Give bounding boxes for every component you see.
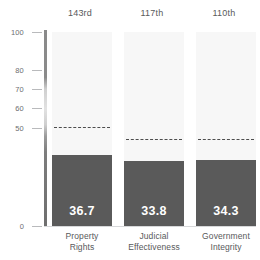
y-tick-mark-100: [32, 32, 42, 33]
category-line-2: Integrity: [190, 242, 260, 253]
plot-area: 100 80 70 60 50 0 36.7 33.8 34.3 Propert: [0, 0, 260, 260]
y-tick-label-0: 0: [2, 222, 24, 231]
category-line-1: Property: [48, 231, 116, 242]
reference-line-3: [198, 139, 254, 140]
x-axis-baseline: [44, 226, 256, 227]
y-tick-mark-50: [32, 128, 42, 129]
category-label-government-integrity: Government Integrity: [190, 231, 260, 252]
reference-line-2: [126, 139, 182, 140]
category-line-2: Rights: [48, 242, 116, 253]
bar-value-government-integrity: 34.3: [196, 204, 256, 218]
bar-judicial-effectiveness[interactable]: 33.8: [124, 161, 184, 226]
y-tick-label-100: 100: [2, 28, 24, 37]
y-tick-mark-0: [32, 226, 42, 227]
category-line-1: Government: [190, 231, 260, 242]
bar-government-integrity[interactable]: 34.3: [196, 160, 256, 226]
reference-line-1: [54, 127, 110, 128]
bar-value-judicial-effectiveness: 33.8: [124, 204, 184, 218]
y-tick-mark-60: [32, 108, 42, 109]
category-label-property-rights: Property Rights: [48, 231, 116, 252]
y-tick-label-60: 60: [2, 104, 24, 113]
y-tick-mark-80: [32, 70, 42, 71]
bar-value-property-rights: 36.7: [52, 204, 112, 218]
y-tick-mark-70: [32, 89, 42, 90]
bar-chart: 143rd 117th 110th 100 80 70 60 50 0 36.: [0, 0, 260, 260]
y-tick-label-70: 70: [2, 85, 24, 94]
category-label-judicial-effectiveness: Judicial Effectiveness: [118, 231, 190, 252]
y-tick-label-50: 50: [2, 124, 24, 133]
category-line-2: Effectiveness: [118, 242, 190, 253]
bar-property-rights[interactable]: 36.7: [52, 155, 112, 226]
y-axis-spine: [44, 30, 47, 227]
y-tick-label-80: 80: [2, 66, 24, 75]
category-line-1: Judicial: [118, 231, 190, 242]
